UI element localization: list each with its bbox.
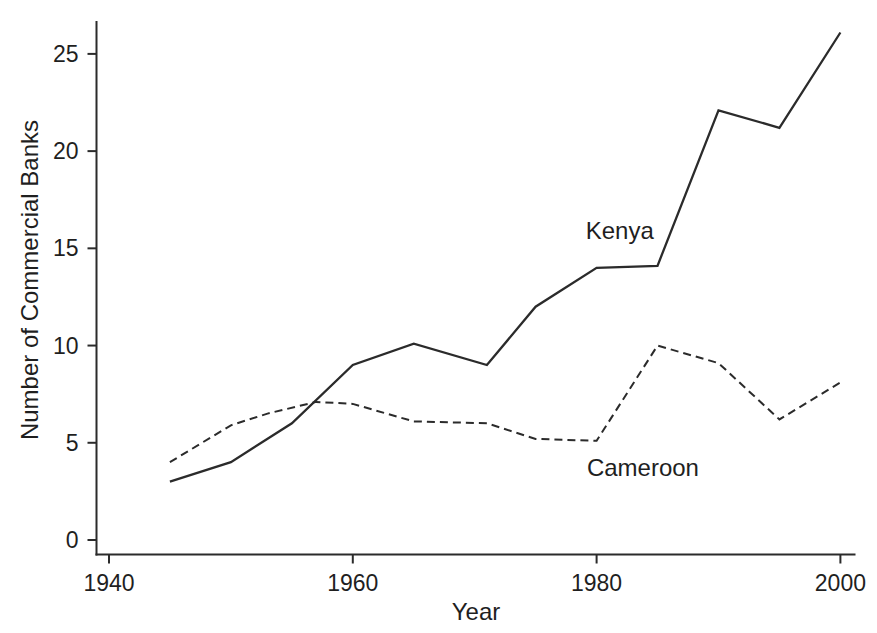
y-tick-label: 0 xyxy=(66,527,79,553)
y-tick-label: 5 xyxy=(66,430,79,456)
chart-canvas: 05101520251940196019802000 xyxy=(0,0,877,633)
x-tick-label: 1960 xyxy=(327,570,378,596)
x-axis-title: Year xyxy=(452,600,501,624)
line-chart-figure: 05101520251940196019802000 Number of Com… xyxy=(0,0,877,633)
y-axis-title: Number of Commercial Banks xyxy=(18,120,42,440)
cameroon-series-line xyxy=(170,346,841,463)
kenya-series-line xyxy=(170,33,841,482)
y-tick-label: 15 xyxy=(53,235,79,261)
y-tick-label: 20 xyxy=(53,138,79,164)
y-tick-label: 10 xyxy=(53,333,79,359)
series-label-kenya: Kenya xyxy=(586,219,654,243)
x-tick-label: 1980 xyxy=(571,570,622,596)
series-label-cameroon: Cameroon xyxy=(587,456,699,480)
y-tick-label: 25 xyxy=(53,41,79,67)
x-tick-label: 1940 xyxy=(83,570,134,596)
x-tick-label: 2000 xyxy=(815,570,866,596)
